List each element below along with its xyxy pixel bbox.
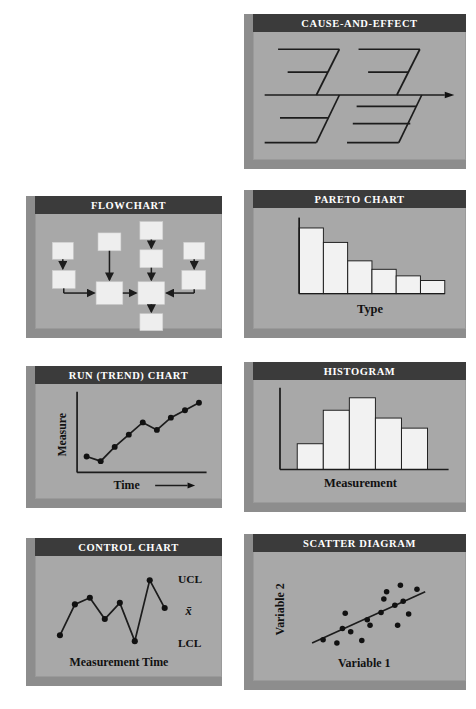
control-data-point — [87, 595, 93, 601]
scatter-xlabel: Variable 1 — [338, 656, 390, 670]
control-data-point — [147, 577, 153, 583]
run-chart-plot: Measure Time — [39, 386, 218, 495]
card-body-control-chart: UCL x̄ LCL Measurement Time — [35, 556, 222, 677]
card-bevel-bottom — [26, 499, 222, 508]
time-arrowhead — [188, 483, 196, 489]
run-data-point — [182, 407, 188, 413]
flow-box — [52, 242, 73, 259]
xbar-label: x̄ — [185, 604, 192, 618]
run-data-point — [168, 415, 174, 421]
card-body-scatter-diagram: Variable 2 Variable 1 — [253, 552, 466, 681]
card-face: HISTOGRAM Measurement — [253, 362, 466, 503]
spine-arrowhead — [445, 92, 455, 99]
card-histogram[interactable]: HISTOGRAM Measurement — [244, 362, 466, 512]
pareto-bar — [323, 242, 347, 293]
pareto-bar — [348, 261, 372, 294]
card-pareto-chart[interactable]: PARETO CHART Type — [244, 190, 466, 338]
card-face: SCATTER DIAGRAM Variable 2 Variable 1 — [253, 534, 466, 681]
card-bevel-bottom — [244, 329, 466, 338]
pareto-bar — [421, 281, 445, 294]
flow-box — [140, 222, 163, 240]
scatter-point — [342, 611, 348, 617]
scatter-point — [340, 626, 346, 632]
card-title-flowchart: FLOWCHART — [35, 196, 222, 214]
scatter-point — [392, 603, 398, 609]
control-data-point — [117, 600, 123, 606]
scatter-point — [381, 596, 387, 602]
flow-box — [98, 233, 121, 251]
scatter-point — [400, 599, 406, 605]
run-ylabel: Measure — [55, 413, 69, 456]
run-data-point — [126, 432, 132, 438]
run-data-point — [98, 458, 104, 464]
scatter-point — [406, 611, 412, 617]
control-data-point — [102, 616, 108, 622]
card-bevel-left — [26, 196, 35, 338]
histogram-bar — [323, 410, 349, 469]
flow-box — [138, 282, 165, 305]
flowchart-diagram — [39, 216, 218, 325]
scatter-point — [378, 610, 384, 616]
lcl-label: LCL — [178, 637, 202, 649]
histogram-plot: Measurement — [257, 382, 462, 499]
card-bevel-left — [244, 14, 253, 169]
scatter-point — [364, 617, 370, 623]
pareto-bar — [372, 269, 396, 293]
scatter-point — [414, 587, 420, 593]
scatter-point — [395, 623, 401, 629]
card-scatter-diagram[interactable]: SCATTER DIAGRAM Variable 2 Variable 1 — [244, 534, 466, 690]
card-title-run-trend-chart: RUN (TREND) CHART — [35, 366, 222, 384]
run-data-point — [140, 420, 146, 426]
flow-box — [96, 282, 123, 305]
flow-box — [140, 250, 163, 268]
card-run-trend-chart[interactable]: RUN (TREND) CHART Measure Time — [26, 366, 222, 508]
pareto-bar — [396, 276, 420, 294]
run-xlabel: Time — [113, 478, 139, 492]
flow-box — [182, 271, 206, 290]
quality-tools-board: CAUSE-AND-EFFECT — [0, 0, 476, 709]
card-bevel-bottom — [26, 329, 222, 338]
card-body-histogram: Measurement — [253, 380, 466, 503]
control-data-point — [57, 632, 63, 638]
card-body-pareto-chart: Type — [253, 208, 466, 329]
card-bevel-left — [26, 366, 35, 508]
scatter-point — [384, 589, 390, 595]
scatter-point — [348, 629, 354, 635]
card-title-control-chart: CONTROL CHART — [35, 538, 222, 556]
pareto-xlabel: Type — [357, 302, 384, 316]
fishbone-diagram — [257, 34, 462, 156]
control-data-point — [132, 638, 138, 644]
run-trend-line — [87, 403, 199, 461]
scatter-point — [367, 623, 373, 629]
card-flowchart[interactable]: FLOWCHART — [26, 196, 222, 338]
scatter-ylabel: Variable 2 — [273, 583, 287, 635]
card-bevel-left — [244, 190, 253, 338]
pareto-chart-plot: Type — [257, 210, 462, 325]
card-control-chart[interactable]: CONTROL CHART UCL x̄ LCL Measurement Tim… — [26, 538, 222, 686]
flow-box — [184, 242, 205, 259]
control-series-line — [60, 580, 165, 641]
card-bevel-bottom — [26, 677, 222, 686]
run-data-point — [112, 444, 118, 450]
card-face: PARETO CHART Type — [253, 190, 466, 329]
control-chart-plot: UCL x̄ LCL Measurement Time — [39, 558, 218, 673]
card-body-cause-and-effect — [253, 32, 466, 160]
pareto-bar — [299, 228, 323, 294]
card-bevel-left — [244, 362, 253, 512]
scatter-point — [398, 583, 404, 589]
histogram-bar — [375, 418, 401, 469]
card-bevel-bottom — [244, 503, 466, 512]
hist-xlabel: Measurement — [324, 476, 398, 490]
flow-box — [52, 271, 75, 289]
run-data-point — [196, 400, 202, 406]
scatter-point — [334, 640, 340, 646]
scatter-point — [359, 638, 365, 644]
flow-box — [140, 314, 163, 331]
card-title-pareto-chart: PARETO CHART — [253, 190, 466, 208]
control-data-point — [72, 601, 78, 607]
card-face: FLOWCHART — [35, 196, 222, 329]
scatter-plot: Variable 2 Variable 1 — [257, 554, 462, 677]
card-body-flowchart — [35, 214, 222, 329]
card-title-scatter-diagram: SCATTER DIAGRAM — [253, 534, 466, 552]
card-cause-and-effect[interactable]: CAUSE-AND-EFFECT — [244, 14, 466, 169]
